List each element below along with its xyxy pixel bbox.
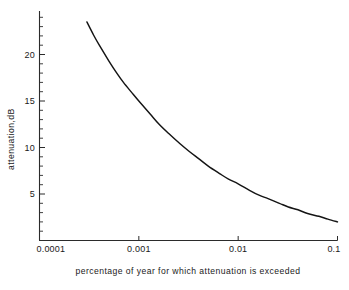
y-tick-label: 20 bbox=[25, 50, 35, 60]
y-axis-tick-labels: 5101520 bbox=[25, 50, 35, 200]
chart-figure: 5101520 0.00010.0010.010.1 attenuation,d… bbox=[0, 0, 349, 290]
x-tick-label: 0.0001 bbox=[37, 244, 66, 254]
x-tick-label: 0.001 bbox=[127, 244, 151, 254]
x-tick-label: 0.1 bbox=[327, 244, 340, 254]
attenuation-curve bbox=[87, 22, 338, 222]
x-tick-label: 0.01 bbox=[229, 244, 247, 254]
y-axis-ticks bbox=[40, 17, 46, 231]
axis-spines bbox=[39, 11, 338, 241]
x-axis-title: percentage of year for which attenuation… bbox=[75, 266, 300, 276]
attenuation-vs-percentage-chart: 5101520 0.00010.0010.010.1 attenuation,d… bbox=[0, 0, 349, 290]
y-tick-label: 10 bbox=[25, 143, 35, 153]
x-axis-tick-labels: 0.00010.0010.010.1 bbox=[37, 244, 341, 254]
y-tick-label: 15 bbox=[25, 96, 35, 106]
y-tick-label: 5 bbox=[30, 189, 35, 199]
x-axis-ticks bbox=[40, 236, 338, 241]
y-axis-title: attenuation,dB bbox=[6, 108, 16, 170]
